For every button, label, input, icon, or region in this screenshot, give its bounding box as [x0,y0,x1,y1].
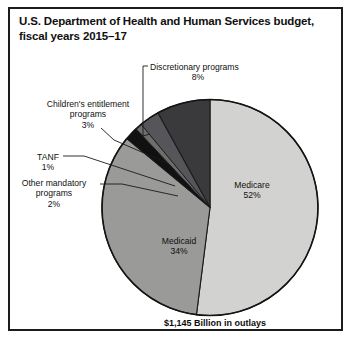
slice-label-tanf-name: TANF [20,152,76,162]
chart-footnote: $1,145 Billion in outlays [100,318,330,328]
slice-label-other-mandatory: Other mandatory programs 2% [11,178,97,209]
slice-label-other-line1: Other mandatory [11,178,97,188]
slice-label-medicaid: Medicaid 34% [148,236,210,257]
slice-label-medicare-name: Medicare [222,180,282,190]
pie-slices [102,100,318,316]
slice-label-other-pct: 2% [11,199,97,209]
slice-label-children-line2: programs [32,109,144,119]
slice-label-medicaid-pct: 34% [148,246,210,256]
slice-label-medicare: Medicare 52% [222,180,282,201]
slice-label-discretionary: Discretionary programs 8% [150,62,246,83]
slice-label-children-entitlement: Children's entitlement programs 3% [32,99,144,130]
slice-label-medicare-pct: 52% [222,190,282,200]
slice-label-discretionary-name: Discretionary programs [150,62,246,72]
slice-label-tanf: TANF 1% [20,152,76,173]
slice-label-children-line1: Children's entitlement [32,99,144,109]
slice-label-other-line2: programs [11,188,97,198]
slice-label-children-pct: 3% [32,120,144,130]
slice-label-tanf-pct: 1% [20,162,76,172]
figure-root: U.S. Department of Health and Human Serv… [0,0,351,338]
slice-label-discretionary-pct: 8% [150,72,246,82]
pie-slice-medicare [196,100,318,316]
slice-label-medicaid-name: Medicaid [148,236,210,246]
